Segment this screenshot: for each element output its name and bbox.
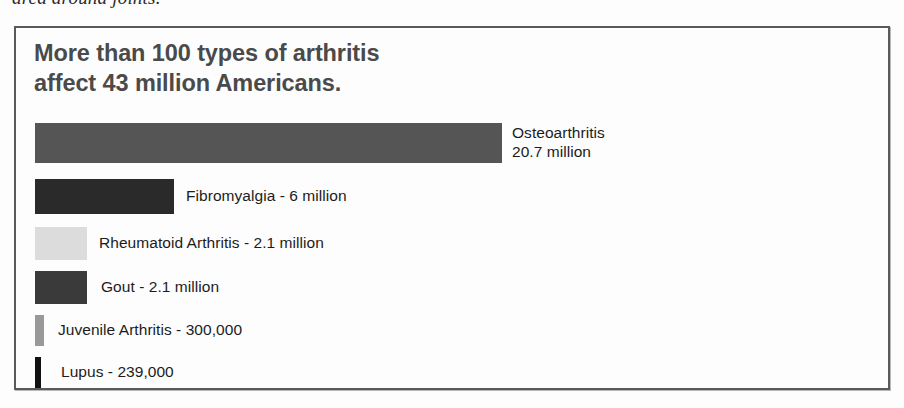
bar-juvenile-arthritis <box>35 315 44 346</box>
bar-label: Lupus - 239,000 <box>61 363 174 382</box>
chart-title: More than 100 types of arthritis affect … <box>34 38 594 98</box>
bar-lupus <box>35 357 41 388</box>
bar-label: Gout - 2.1 million <box>101 278 219 297</box>
bar-row: Osteoarthritis 20.7 million <box>35 123 882 163</box>
bar-label: Osteoarthritis 20.7 million <box>512 124 605 162</box>
bar-label: Fibromyalgia - 6 million <box>186 187 347 206</box>
bar-rheumatoid-arthritis <box>35 227 87 260</box>
bar-row: Juvenile Arthritis - 300,000 <box>35 315 882 346</box>
clipped-body-text: area around joints. <box>12 0 412 9</box>
bar-row: Fibromyalgia - 6 million <box>35 179 882 214</box>
bar-fibromyalgia <box>35 179 174 214</box>
bar-row: Lupus - 239,000 <box>35 357 882 388</box>
chart-figure-box: More than 100 types of arthritis affect … <box>14 26 890 390</box>
scanned-page: area around joints. More than 100 types … <box>0 0 904 408</box>
bar-row: Rheumatoid Arthritis - 2.1 million <box>35 227 882 260</box>
bar-row: Gout - 2.1 million <box>35 271 882 304</box>
bar-label: Juvenile Arthritis - 300,000 <box>58 321 242 340</box>
bar-gout <box>35 271 87 304</box>
bar-label: Rheumatoid Arthritis - 2.1 million <box>99 234 324 253</box>
bar-osteoarthritis <box>35 123 502 163</box>
bar-chart-plot-area: Osteoarthritis 20.7 millionFibromyalgia … <box>35 123 882 384</box>
